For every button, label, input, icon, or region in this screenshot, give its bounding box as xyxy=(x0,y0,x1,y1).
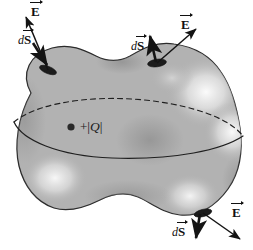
label-area-top-right: dS xyxy=(131,39,144,52)
shadow-bottom xyxy=(84,180,172,212)
charge-label: +|Q| xyxy=(80,119,103,135)
point-charge-dot xyxy=(67,123,74,130)
label-field-bottom-right-text: E xyxy=(232,206,241,219)
label-field-bottom-right: E xyxy=(232,206,241,219)
label-area-top-left-text: S xyxy=(24,33,31,46)
figure-canvas xyxy=(0,0,253,250)
label-area-top-right-text: S xyxy=(137,39,144,52)
label-area-bottom-right: dS xyxy=(172,225,185,238)
gaussian-surface-figure: E dS E dS E dS +|Q| xyxy=(0,0,253,250)
charge-symbol: Q xyxy=(90,119,100,134)
shadow-right-lower xyxy=(222,156,253,204)
label-field-top-left-text: E xyxy=(31,5,40,18)
label-field-top-right: E xyxy=(181,18,190,31)
charge-bar-close: | xyxy=(100,119,103,134)
label-area-top-left: dS xyxy=(18,33,31,46)
shadow-left-edge xyxy=(2,76,46,164)
gaussian-surface-body xyxy=(2,43,253,226)
label-area-bottom-right-text: S xyxy=(178,225,185,238)
label-field-top-left: E xyxy=(31,5,40,18)
area-vector-bottom-right xyxy=(196,214,200,238)
shadow-top-notch xyxy=(96,50,148,74)
label-field-top-right-text: E xyxy=(181,18,190,31)
